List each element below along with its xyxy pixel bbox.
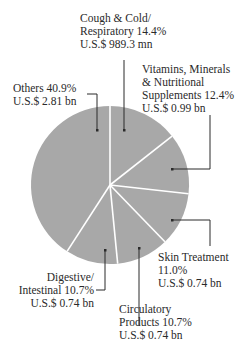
label-cough-value: U.S.$ 989.3 mn <box>80 38 166 51</box>
label-skin-percent: 11.0% <box>158 264 229 277</box>
label-others: Others 40.9% U.S.$ 2.81 bn <box>13 82 77 108</box>
label-skin-treatment: Skin Treatment 11.0% U.S.$ 0.74 bn <box>158 251 229 290</box>
label-circulatory: Circulatory Products 10.7% U.S.$ 0.74 bn <box>119 303 192 342</box>
label-vitamins-value: U.S.$ 0.99 bn <box>142 102 234 115</box>
label-vitamins-name1: Vitamins, Minerals <box>142 63 234 76</box>
label-vitamins-name3: Supplements 12.4% <box>142 89 234 102</box>
label-skin-value: U.S.$ 0.74 bn <box>158 277 229 290</box>
label-circulatory-name2: Products 10.7% <box>119 316 192 329</box>
label-circulatory-name1: Circulatory <box>119 303 192 316</box>
label-digestive-value: U.S.$ 0.74 bn <box>19 297 94 310</box>
label-circulatory-value: U.S.$ 0.74 bn <box>119 329 192 342</box>
label-digestive-name2: Intestinal 10.7% <box>19 284 94 297</box>
label-others-value: U.S.$ 2.81 bn <box>13 95 77 108</box>
label-cough-name2: Respiratory 14.4% <box>80 25 166 38</box>
label-digestive-name1: Digestive/ <box>19 271 94 284</box>
label-others-name: Others 40.9% <box>13 82 77 95</box>
label-skin-name: Skin Treatment <box>158 251 229 264</box>
label-cough-cold: Cough & Cold/ Respiratory 14.4% U.S.$ 98… <box>80 12 166 51</box>
label-digestive: Digestive/ Intestinal 10.7% U.S.$ 0.74 b… <box>19 271 94 310</box>
label-vitamins-name2: & Nutritional <box>142 76 234 89</box>
label-cough-name1: Cough & Cold/ <box>80 12 166 25</box>
label-vitamins: Vitamins, Minerals & Nutritional Supplem… <box>142 63 234 115</box>
